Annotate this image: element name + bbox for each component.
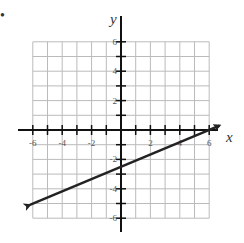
svg-text:-6: -6 — [110, 213, 118, 223]
svg-text:2: 2 — [113, 96, 118, 106]
svg-text:-2: -2 — [110, 154, 118, 164]
svg-text:-6: -6 — [29, 138, 37, 148]
svg-text:-2: -2 — [88, 138, 96, 148]
svg-text:2: 2 — [148, 138, 153, 148]
y-axis-label: y — [108, 11, 117, 27]
svg-text:-4: -4 — [110, 184, 118, 194]
svg-text:4: 4 — [113, 66, 118, 76]
svg-text:6: 6 — [113, 37, 118, 47]
coordinate-plane: • -6-4-2246642-2-4-6 y x — [0, 0, 244, 243]
svg-text:-4: -4 — [58, 138, 66, 148]
x-axis-label: x — [225, 129, 233, 145]
svg-text:6: 6 — [207, 138, 212, 148]
list-marker: • — [0, 8, 5, 23]
